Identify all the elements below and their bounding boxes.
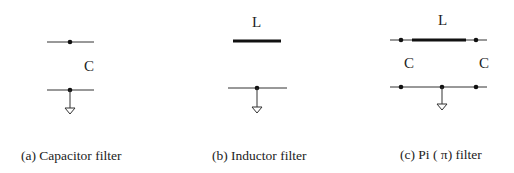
node-dot	[68, 40, 73, 45]
capacitor-label: C	[84, 58, 94, 74]
caption-a: (a) Capacitor filter	[21, 148, 122, 163]
capacitor-right-label: C	[479, 55, 489, 71]
panel-pi-filter: L C C (c) Pi ( π) filter	[390, 12, 489, 162]
inductor-label: L	[438, 12, 447, 28]
inductor-label: L	[252, 14, 261, 30]
node-dot	[474, 38, 479, 43]
ground-icon	[65, 108, 75, 114]
node-dot	[399, 85, 404, 90]
caption-b: (b) Inductor filter	[212, 148, 307, 163]
node-dot	[474, 85, 479, 90]
node-dot	[399, 38, 404, 43]
filter-diagrams: C (a) Capacitor filter L (b) Inductor fi…	[0, 0, 514, 173]
capacitor-left-label: C	[404, 55, 414, 71]
ground-icon	[252, 107, 262, 113]
caption-c: (c) Pi ( π) filter	[400, 147, 482, 162]
panel-capacitor-filter: C (a) Capacitor filter	[21, 40, 122, 163]
panel-inductor-filter: L (b) Inductor filter	[212, 14, 307, 163]
ground-icon	[437, 104, 447, 110]
